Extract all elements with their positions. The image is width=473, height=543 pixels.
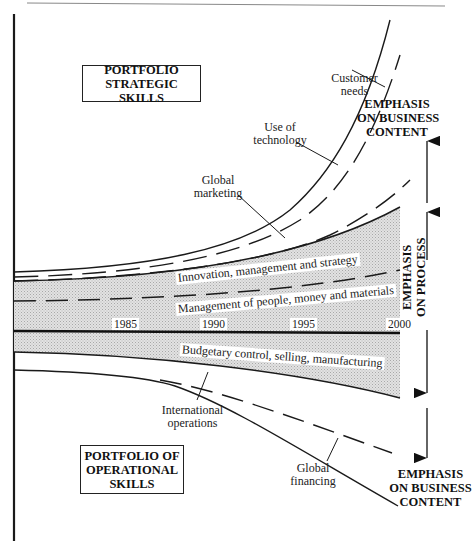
global-marketing-label: Global marketing (188, 174, 248, 200)
portfolio-strategic-skills-box: PORTFOLIO STRATEGIC SKILLS (82, 65, 201, 102)
global-financing-label: Global financing (283, 462, 343, 488)
customer-needs-label: Customer needs (327, 72, 382, 98)
bottom-annotation-line-2: ON BUSINESS (388, 481, 473, 495)
customer-needs-curve (14, 20, 390, 272)
year-1990: 1990 (200, 318, 227, 330)
bottom-annotation-line-1: EMPHASIS (388, 467, 473, 481)
use-of-technology-label: Use of technology (245, 121, 315, 147)
international-operations-leader (197, 372, 208, 400)
emphasis-on-process: EMPHASIS ON PROCESS (400, 232, 428, 322)
use-of-technology-line-2: technology (245, 134, 315, 147)
emphasis-business-content-bottom: EMPHASIS ON BUSINESS CONTENT (388, 467, 473, 509)
international-operations-line-2: operations (155, 417, 230, 430)
top-annotation-line-1: EMPHASIS (357, 97, 437, 111)
year-1985: 1985 (112, 318, 139, 330)
global-marketing-leader (238, 195, 285, 238)
top-box-line-1: PORTFOLIO (83, 63, 200, 77)
bottom-box-line-1: PORTFOLIO OF (84, 449, 179, 463)
top-annotation-line-3: CONTENT (357, 125, 437, 139)
portfolio-operational-skills-box: PORTFOLIO OF OPERATIONAL SKILLS (80, 445, 184, 494)
international-operations-label: International operations (155, 404, 230, 430)
emphasis-business-content-top: EMPHASIS ON BUSINESS CONTENT (357, 97, 437, 139)
header-rule (27, 3, 445, 6)
year-1995: 1995 (290, 318, 317, 330)
global-marketing-line-2: marketing (188, 187, 248, 200)
global-financing-leader (327, 438, 338, 461)
top-box-line-2: STRATEGIC SKILLS (83, 77, 200, 105)
process-annotation-line-2: ON PROCESS (414, 237, 428, 317)
global-financing-line-2: financing (283, 475, 343, 488)
bottom-box-line-3: SKILLS (84, 477, 179, 491)
bottom-annotation-line-3: CONTENT (388, 495, 473, 509)
top-annotation-line-2: ON BUSINESS (357, 111, 437, 125)
bottom-box-line-2: OPERATIONAL (84, 463, 179, 477)
process-annotation-line-1: EMPHASIS (400, 244, 414, 309)
